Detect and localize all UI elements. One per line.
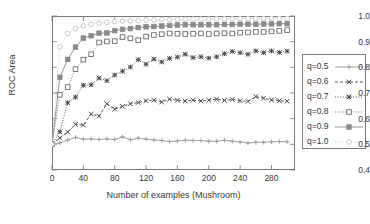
y-tick-label: 0.7 (324, 89, 370, 98)
series-q05 (50, 135, 290, 147)
y-axis-label: ROC Area (7, 35, 17, 115)
y-tick-label: 0.4 (324, 166, 370, 175)
legend-label: q=0.6 (307, 77, 334, 86)
series-q09 (50, 21, 290, 146)
y-tick-label: 0.8 (324, 63, 370, 72)
y-tick-label: 1.0 (324, 12, 370, 21)
y-tick-label: 0.5 (324, 140, 370, 149)
x-axis-label: Number of examples (Mushroom) (52, 190, 295, 200)
legend-swatch-cross-icon (334, 75, 364, 89)
chart-figure: ROC Area Number of examples (Mushroom) q… (0, 0, 370, 224)
x-tick-label: 280 (251, 174, 291, 183)
legend-label: q=0.9 (307, 122, 334, 131)
legend-item-q06[interactable]: q=0.6 (303, 74, 365, 89)
y-tick-label: 0.9 (324, 38, 370, 47)
y-tick-label: 0.6 (324, 115, 370, 124)
